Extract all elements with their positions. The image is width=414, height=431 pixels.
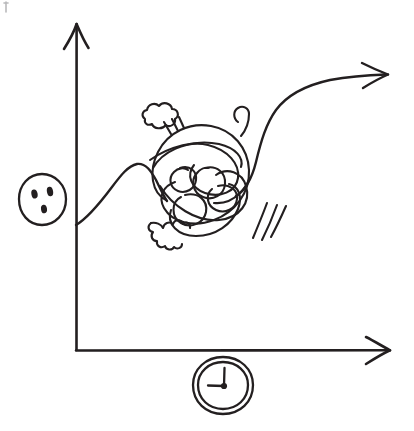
face-right-eye	[46, 186, 54, 197]
tangle-knot-icon	[150, 125, 250, 236]
clock-icon	[193, 357, 253, 414]
puff-speed-line-3	[179, 117, 184, 128]
motion-arc-3	[271, 206, 286, 237]
face-left-eye	[31, 189, 39, 199]
flick-mark-icon	[234, 107, 249, 136]
x-axis	[76, 337, 390, 364]
clock-center-dot	[221, 383, 227, 389]
y-axis	[64, 24, 89, 350]
corner-tick-icon	[4, 2, 8, 12]
motion-arcs-icon	[253, 203, 286, 240]
puff-cloud-icon	[143, 103, 184, 134]
surprised-face-icon	[19, 174, 66, 225]
face-mouth-dot	[40, 204, 47, 213]
puff-speed-line-1	[164, 122, 171, 134]
hand-drawn-chart	[0, 0, 414, 431]
sketch-canvas: Hand-drawn chart: a trend line that tang…	[0, 0, 414, 431]
trend-curve	[76, 63, 388, 225]
